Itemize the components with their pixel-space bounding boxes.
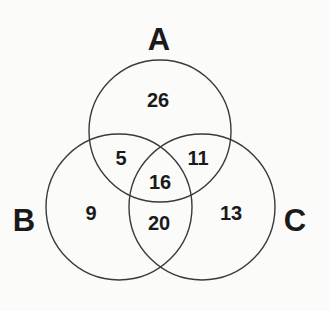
region-a-and-b-value: 5 <box>115 147 126 169</box>
region-a-b-c-value: 16 <box>149 171 171 193</box>
region-a-and-c-value: 11 <box>187 147 208 169</box>
venn-diagram: A B C 26 5 11 16 9 20 13 <box>0 0 329 311</box>
set-label-c: C <box>284 203 306 238</box>
venn-diagram-canvas: A B C 26 5 11 16 9 20 13 <box>0 0 329 311</box>
region-b-and-c-value: 20 <box>148 212 170 234</box>
region-a-only-value: 26 <box>147 89 169 111</box>
set-label-a: A <box>148 22 170 57</box>
region-b-only-value: 9 <box>85 202 96 224</box>
set-labels: A B C <box>13 22 306 238</box>
region-values: 26 5 11 16 9 20 13 <box>85 89 242 234</box>
region-c-only-value: 13 <box>220 202 242 224</box>
set-label-b: B <box>13 203 35 238</box>
